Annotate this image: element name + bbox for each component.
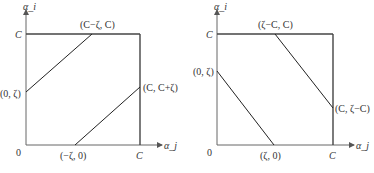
left-point-right: (C, C+ζ) — [143, 82, 178, 94]
left-y-axis-label: α_i — [23, 1, 36, 12]
left-point-left: (0, ζ) — [0, 88, 21, 100]
right-x-tick-c: C — [329, 150, 336, 161]
right-origin-label: 0 — [207, 147, 212, 158]
right-point-right: (C, ζ−C) — [335, 103, 370, 115]
left-point-bottom: (−ζ, 0) — [60, 150, 86, 162]
right-y-axis-label: α_i — [214, 1, 227, 12]
right-y-tick-c: C — [206, 29, 213, 40]
left-x-tick-c: C — [136, 150, 143, 161]
right-lower-line — [217, 71, 274, 145]
right-point-left: (0, ζ) — [193, 66, 214, 78]
right-x-axis-label: α_j — [356, 140, 369, 151]
left-y-tick-c: C — [15, 29, 22, 40]
left-origin-label: 0 — [16, 147, 21, 158]
right-panel: α_i α_j 0 C C (ζ−C, C) (0, ζ) (C, ζ−C) (… — [193, 1, 370, 162]
left-upper-line — [26, 34, 92, 92]
right-upper-line — [275, 34, 333, 108]
diagram-canvas: α_i α_j 0 C C (C−ζ, C) (0, ζ) (C, C+ζ) (… — [0, 0, 374, 173]
left-x-axis-label: α_j — [164, 140, 177, 151]
right-point-bottom: (ζ, 0) — [260, 150, 281, 162]
left-lower-line — [75, 87, 140, 145]
left-panel: α_i α_j 0 C C (C−ζ, C) (0, ζ) (C, C+ζ) (… — [0, 1, 178, 162]
left-point-top: (C−ζ, C) — [80, 19, 115, 31]
right-point-top: (ζ−C, C) — [258, 19, 293, 31]
